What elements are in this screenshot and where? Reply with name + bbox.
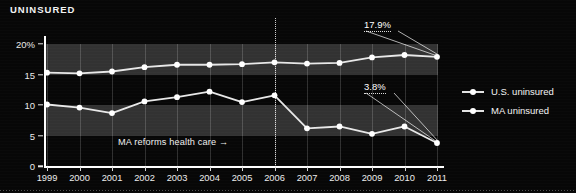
gridline-vertical bbox=[177, 44, 178, 167]
gridline-vertical bbox=[80, 44, 81, 167]
chart-title: UNINSURED bbox=[10, 4, 75, 15]
x-tick-mark bbox=[437, 167, 438, 171]
y-tick-label: 0 bbox=[0, 161, 35, 172]
x-tick-mark bbox=[242, 167, 243, 171]
gridline-vertical bbox=[437, 44, 438, 167]
annotation-us-endpoint-label: 17.9% bbox=[364, 19, 391, 30]
gridline-vertical bbox=[372, 44, 373, 167]
y-tick-mark bbox=[38, 104, 43, 105]
annotation-ma-endpoint: 3.8% bbox=[364, 81, 386, 94]
gridline-vertical bbox=[112, 44, 113, 167]
x-tick-mark bbox=[307, 167, 308, 171]
annotation-reform-note: MA reforms health care → bbox=[118, 137, 228, 147]
x-tick-label: 2007 bbox=[297, 173, 318, 183]
shaded-band-0 bbox=[44, 44, 438, 75]
y-tick-mark bbox=[38, 135, 43, 136]
x-tick-label: 2010 bbox=[394, 173, 415, 183]
x-tick-label: 2003 bbox=[167, 173, 188, 183]
x-axis bbox=[44, 166, 444, 168]
x-tick-label: 2008 bbox=[329, 173, 350, 183]
x-tick-mark bbox=[80, 167, 81, 171]
x-tick-label: 2000 bbox=[69, 173, 90, 183]
gridline-vertical bbox=[242, 44, 243, 167]
reference-line-2006 bbox=[275, 18, 276, 167]
x-tick-mark bbox=[372, 167, 373, 171]
x-tick-label: 2001 bbox=[102, 173, 123, 183]
x-tick-label: 2004 bbox=[199, 173, 220, 183]
legend: U.S. uninsured MA uninsured bbox=[462, 82, 554, 120]
gridline-vertical bbox=[340, 44, 341, 167]
legend-item-ma-uninsured[interactable]: MA uninsured bbox=[462, 101, 554, 120]
y-tick-mark bbox=[38, 74, 43, 75]
x-tick-mark bbox=[405, 167, 406, 171]
y-tick-mark bbox=[38, 43, 43, 44]
gridline-vertical bbox=[210, 44, 211, 167]
y-tick-label: 5 bbox=[0, 130, 35, 141]
legend-label-ma-uninsured: MA uninsured bbox=[491, 105, 549, 116]
y-tick-label: 10 bbox=[0, 100, 35, 111]
y-axis bbox=[44, 36, 46, 168]
gridline-vertical bbox=[47, 44, 48, 167]
legend-marker-icon bbox=[462, 87, 484, 97]
x-tick-mark bbox=[210, 167, 211, 171]
gridline-vertical bbox=[307, 44, 308, 167]
x-tick-label: 1999 bbox=[37, 173, 58, 183]
x-tick-label: 2009 bbox=[362, 173, 383, 183]
x-tick-mark bbox=[340, 167, 341, 171]
y-tick-mark bbox=[38, 165, 43, 166]
x-tick-mark bbox=[275, 167, 276, 171]
plot-area bbox=[44, 44, 438, 167]
legend-item-us-uninsured[interactable]: U.S. uninsured bbox=[462, 82, 554, 101]
x-tick-label: 2011 bbox=[427, 173, 447, 183]
annotation-us-underline bbox=[364, 31, 391, 32]
x-tick-mark bbox=[47, 167, 48, 171]
x-tick-mark bbox=[112, 167, 113, 171]
gridline-vertical bbox=[145, 44, 146, 167]
y-tick-label: 20% bbox=[0, 39, 35, 50]
gridline-vertical bbox=[405, 44, 406, 167]
x-tick-mark bbox=[177, 167, 178, 171]
legend-label-us-uninsured: U.S. uninsured bbox=[491, 86, 554, 97]
annotation-us-endpoint: 17.9% bbox=[364, 19, 391, 32]
annotation-ma-endpoint-label: 3.8% bbox=[364, 81, 386, 92]
x-tick-label: 2005 bbox=[232, 173, 253, 183]
x-tick-mark bbox=[145, 167, 146, 171]
y-tick-label: 15 bbox=[0, 69, 35, 80]
shaded-band-1 bbox=[44, 105, 438, 136]
x-tick-label: 2006 bbox=[264, 173, 285, 183]
annotation-ma-underline bbox=[364, 93, 386, 94]
bottom-divider bbox=[0, 190, 576, 191]
legend-marker-icon bbox=[462, 106, 484, 116]
chart-container: UNINSURED 05101520% 19992000200120022003… bbox=[0, 0, 576, 193]
x-tick-label: 2002 bbox=[134, 173, 155, 183]
